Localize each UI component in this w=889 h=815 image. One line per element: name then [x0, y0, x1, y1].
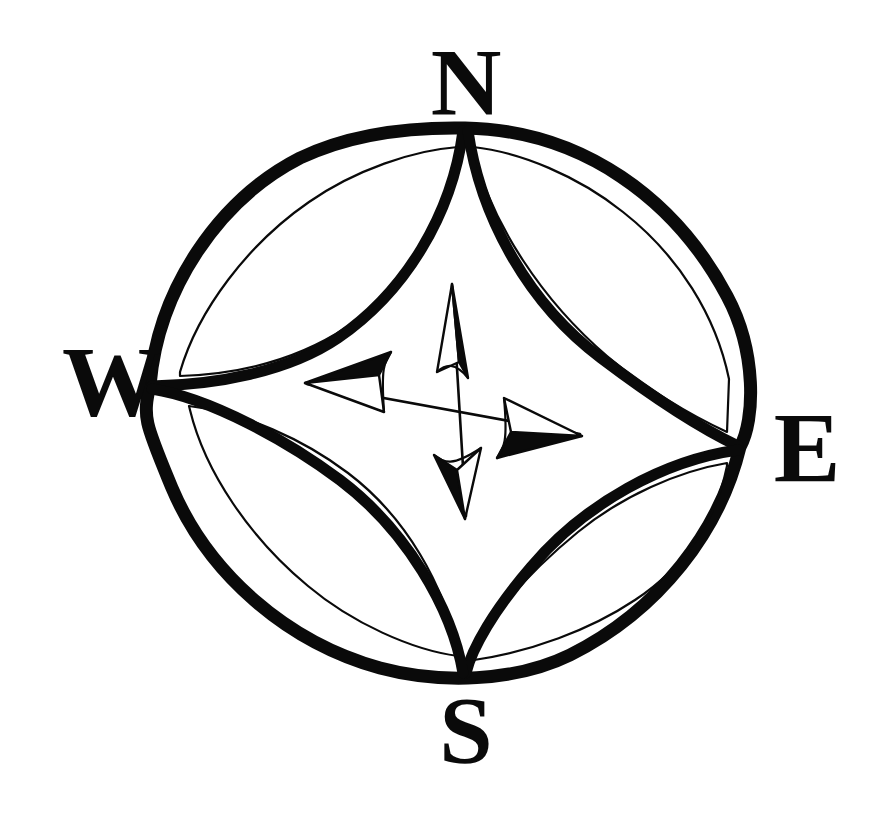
cardinal-label-south: S	[411, 683, 521, 779]
cardinal-label-east: E	[752, 398, 862, 498]
compass-rose-figure: N E S W	[0, 0, 889, 815]
cardinal-label-north: N	[410, 35, 522, 131]
cardinal-label-west: W	[52, 332, 172, 432]
